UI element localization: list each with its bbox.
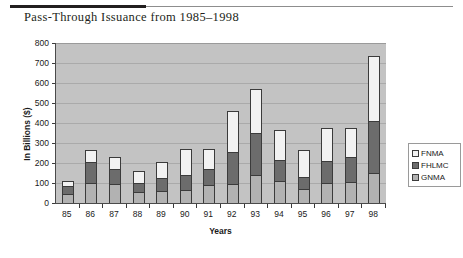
bar-segment-fnma: [203, 149, 215, 169]
header-rule-thick: [10, 5, 146, 8]
bar-segment-fnma: [321, 128, 333, 161]
bar-segment-fnma: [85, 150, 97, 162]
x-tick-mark: [291, 204, 292, 208]
x-tick-label: 85: [62, 209, 71, 219]
x-tick-mark: [102, 204, 103, 208]
bar-series-group: [56, 43, 386, 203]
x-tick-label: 91: [203, 209, 212, 219]
bar-segment-fnma: [345, 128, 357, 157]
bar-segment-fhlmc: [250, 133, 262, 175]
figure-title: Pass-Through Issuance from 1985–1998: [24, 10, 239, 25]
bar-segment-gnma: [368, 173, 380, 203]
bar-segment-fhlmc: [227, 152, 239, 184]
y-tick-label: 800: [35, 38, 49, 48]
x-tick-mark: [385, 204, 386, 208]
legend-swatch-icon: [412, 162, 419, 169]
bar-segment-fhlmc: [85, 162, 97, 183]
x-tick-label: 96: [321, 209, 330, 219]
x-axis-title: Years: [55, 226, 386, 236]
bar-group: [156, 162, 168, 203]
legend-swatch-icon: [412, 150, 419, 157]
bar-group: [133, 171, 145, 203]
legend-item: FNMA: [412, 147, 457, 159]
bar-segment-gnma: [203, 185, 215, 203]
bar-segment-gnma: [62, 194, 74, 203]
bar-group: [180, 149, 192, 203]
bar-segment-gnma: [321, 183, 333, 203]
bar-segment-gnma: [180, 190, 192, 203]
x-tick-mark: [149, 204, 150, 208]
bar-group: [250, 89, 262, 203]
y-axis-ticks: 0100200300400500600700800: [22, 36, 52, 204]
bar-segment-fnma: [250, 89, 262, 133]
header-rule: [10, 5, 453, 8]
y-tick-label: 100: [35, 178, 49, 188]
header-rule-thin: [146, 6, 453, 7]
bar-segment-fnma: [227, 111, 239, 152]
bar-group: [368, 56, 380, 203]
x-tick-label: 86: [86, 209, 95, 219]
bar-segment-fnma: [298, 150, 310, 177]
bar-segment-gnma: [250, 175, 262, 203]
x-tick-mark: [338, 204, 339, 208]
bar-group: [109, 157, 121, 203]
bar-segment-fnma: [368, 56, 380, 121]
bar-segment-fnma: [156, 162, 168, 178]
bar-segment-gnma: [298, 189, 310, 203]
bar-segment-fnma: [180, 149, 192, 175]
bar-segment-gnma: [345, 182, 357, 203]
chart-container: In Billions ($) 010020030040050060070080…: [0, 36, 463, 251]
bar-group: [274, 130, 286, 203]
y-tick-label: 300: [35, 138, 49, 148]
x-tick-mark: [196, 204, 197, 208]
bar-segment-gnma: [133, 192, 145, 203]
bar-segment-fhlmc: [180, 175, 192, 190]
y-tick-label: 600: [35, 78, 49, 88]
y-tick-label: 700: [35, 58, 49, 68]
y-tick-label: 200: [35, 158, 49, 168]
bar-group: [85, 150, 97, 203]
x-tick-label: 98: [368, 209, 377, 219]
bar-segment-fhlmc: [298, 177, 310, 189]
bar-segment-fnma: [133, 171, 145, 183]
x-tick-label: 95: [298, 209, 307, 219]
legend-label: FNMA: [421, 149, 444, 158]
legend-swatch-icon: [412, 174, 419, 181]
legend-label: GNMA: [421, 173, 445, 182]
x-tick-mark: [79, 204, 80, 208]
bar-segment-fnma: [274, 130, 286, 160]
bar-group: [321, 128, 333, 203]
x-tick-mark: [314, 204, 315, 208]
bar-segment-fhlmc: [109, 169, 121, 184]
bar-group: [203, 149, 215, 203]
bar-segment-fhlmc: [203, 169, 215, 185]
y-tick-label: 0: [44, 198, 49, 208]
bar-segment-fhlmc: [368, 121, 380, 173]
y-tick-label: 400: [35, 118, 49, 128]
bar-segment-gnma: [156, 191, 168, 203]
bar-segment-gnma: [109, 184, 121, 203]
bar-group: [227, 111, 239, 203]
x-tick-mark: [173, 204, 174, 208]
x-tick-label: 87: [109, 209, 118, 219]
x-tick-label: 92: [227, 209, 236, 219]
bar-group: [298, 150, 310, 203]
bar-group: [62, 181, 74, 203]
x-tick-mark: [361, 204, 362, 208]
x-tick-label: 94: [274, 209, 283, 219]
chart-legend: FNMAFHLMCGNMA: [408, 143, 461, 187]
y-tick-label: 500: [35, 98, 49, 108]
bar-segment-gnma: [274, 181, 286, 203]
x-tick-label: 97: [345, 209, 354, 219]
x-axis-labels: 8586878889909192939495969798: [55, 209, 386, 223]
x-tick-label: 89: [156, 209, 165, 219]
bar-segment-fhlmc: [133, 183, 145, 192]
x-tick-label: 90: [180, 209, 189, 219]
bar-segment-gnma: [85, 183, 97, 203]
x-tick-mark: [220, 204, 221, 208]
x-tick-mark: [244, 204, 245, 208]
bar-segment-fhlmc: [156, 178, 168, 191]
bar-segment-fhlmc: [345, 157, 357, 182]
legend-label: FHLMC: [421, 161, 449, 170]
bar-segment-fhlmc: [321, 161, 333, 183]
